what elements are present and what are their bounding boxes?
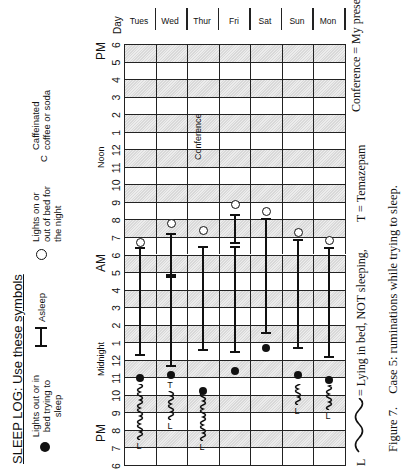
lights-out-dot-icon: [40, 442, 50, 452]
asleep-bar: [170, 234, 172, 274]
asleep-start-cap: [166, 274, 176, 276]
grid-cell: [283, 62, 315, 80]
grid-cell: [125, 97, 157, 115]
grid-cell: [220, 79, 252, 97]
grid-cell: [157, 149, 189, 167]
asleep-end-cap: [166, 233, 176, 235]
axis-am: AM: [94, 254, 108, 272]
grid-cell: [188, 307, 220, 325]
lying-L-marker: L: [326, 411, 331, 421]
grid-cell: [314, 44, 346, 62]
day-label-fri: Fri: [219, 16, 249, 26]
grid-cell: [125, 290, 157, 308]
grid-cell: [251, 132, 283, 150]
grid-cell: [314, 132, 346, 150]
grid-cell: [251, 79, 283, 97]
lights-on-circle-icon: [199, 226, 208, 235]
grid-cell: [251, 272, 283, 290]
grid-cell: [251, 44, 283, 62]
grid-cell: [220, 430, 252, 448]
lying-L-marker: L: [136, 441, 141, 451]
grid-cell: [283, 132, 315, 150]
ruminating-wavy-line-icon: [324, 385, 334, 410]
grid-cell: [125, 202, 157, 220]
grid-cell: [314, 219, 346, 237]
time-tick: 1: [110, 335, 122, 351]
asleep-end-cap: [135, 247, 145, 249]
grid-cell: [283, 44, 315, 62]
day-header: Day: [112, 16, 123, 34]
asleep-bar: [297, 240, 299, 349]
legend-lights-on: Lights on or out of bed for the night: [30, 178, 63, 242]
axis-pm-right: PM: [94, 42, 108, 60]
grid-cell: [251, 97, 283, 115]
grid-cell: [314, 430, 346, 448]
time-tick: 1: [110, 125, 122, 141]
lights-on-circle-icon: [294, 228, 303, 237]
time-tick: 4: [110, 283, 122, 299]
time-tick: 5: [110, 265, 122, 281]
asleep-bar-icon: [40, 328, 42, 346]
legend-caffeine: Caffeinated coffee or soda: [30, 86, 52, 150]
time-tick: 9: [110, 405, 122, 421]
grid-cell: [251, 307, 283, 325]
grid-cell: [125, 325, 157, 343]
asleep-start-cap: [198, 349, 208, 351]
grid-cell: [314, 184, 346, 202]
grid-cell: [314, 325, 346, 343]
asleep-start-cap: [261, 332, 271, 334]
grid-cell: [283, 167, 315, 185]
time-tick: 3: [110, 300, 122, 316]
ruminating-wavy-line-icon: [135, 384, 145, 440]
grid-cell: [283, 447, 315, 465]
grid-cell: [251, 255, 283, 273]
grid-cell: [157, 167, 189, 185]
grid-cell: [157, 307, 189, 325]
grid-cell: [157, 255, 189, 273]
time-tick: 12: [110, 353, 122, 369]
asleep-end-cap: [198, 246, 208, 248]
grid-cell: [157, 184, 189, 202]
grid-cell: [188, 79, 220, 97]
grid-cell: [188, 62, 220, 80]
grid-cell: [188, 255, 220, 273]
asleep-end-cap: [324, 247, 334, 249]
asleep-bar: [139, 249, 141, 356]
grid-cell: [157, 114, 189, 132]
asleep-start-cap: [230, 351, 240, 353]
asleep-cap-icon: [35, 328, 47, 330]
grid-cell: [220, 377, 252, 395]
wavy-line-icon: [352, 398, 366, 454]
grid-cell: [283, 79, 315, 97]
grid-cell: [125, 167, 157, 185]
grid-cell: [157, 44, 189, 62]
grid-cell: [188, 290, 220, 308]
time-tick: 10: [110, 177, 122, 193]
legend-asleep: Asleep: [36, 293, 47, 322]
ruminating-wavy-line-icon: [198, 394, 208, 441]
asleep-end-cap: [166, 276, 176, 278]
grid-cell: [283, 114, 315, 132]
time-tick: 10: [110, 388, 122, 404]
conference-note: Conference = My presentation: [350, 2, 363, 112]
asleep-end-cap: [230, 214, 240, 216]
legend-lights-out: Lights out or in bed trying to sleep: [30, 374, 63, 438]
lying-L-marker: L: [168, 422, 173, 432]
grid-cell: [157, 430, 189, 448]
conference-cell-note: Conference: [193, 113, 203, 160]
grid-cell: [314, 149, 346, 167]
caffeine-symbol: C: [38, 155, 49, 162]
grid-cell: [157, 342, 189, 360]
day-label-sun: Sun: [282, 16, 312, 26]
grid-cell: [220, 149, 252, 167]
grid-cell: [125, 184, 157, 202]
figure-caption-text: Case 5: ruminations while trying to slee…: [386, 185, 400, 394]
grid-cell: [220, 412, 252, 430]
time-tick: 7: [110, 440, 122, 456]
grid-cell: [188, 167, 220, 185]
figure-label: Figure 7.: [386, 407, 400, 452]
grid-cell: [125, 114, 157, 132]
grid-cell: [125, 342, 157, 360]
grid-cell: [157, 237, 189, 255]
grid-cell: [283, 97, 315, 115]
